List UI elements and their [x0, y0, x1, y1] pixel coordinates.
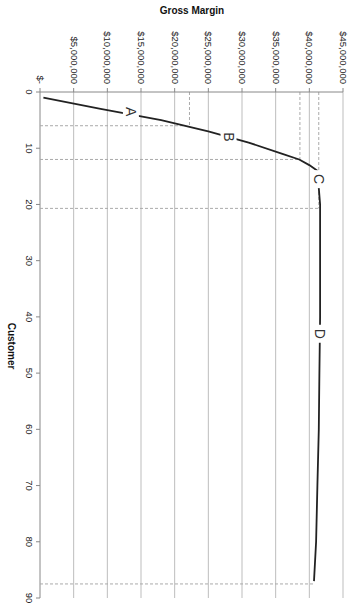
x-tick-label: 40	[24, 312, 35, 323]
data-series-line	[43, 98, 320, 581]
segment-labels: ABCD	[123, 103, 328, 343]
x-tick-label: 90	[24, 593, 35, 604]
y-tick-label: $10,000,000	[102, 31, 113, 84]
segment-label: C	[311, 174, 327, 184]
segment-label: D	[312, 329, 328, 339]
y-tick-label: $25,000,000	[203, 31, 214, 84]
x-tick-label: 70	[24, 480, 35, 491]
reference-lines	[40, 92, 320, 584]
x-tick-label: 20	[24, 199, 35, 210]
x-axis-title: Customer	[6, 323, 17, 370]
gridlines	[40, 92, 343, 598]
x-tick-label: 10	[24, 143, 35, 154]
x-tick-label: 0	[24, 89, 35, 94]
y-tick-label: $15,000,000	[136, 31, 147, 84]
y-tick-label: $20,000,000	[170, 31, 181, 84]
y-axis-title: Gross Margin	[160, 5, 224, 16]
y-tick-label: $5,000,000	[69, 36, 80, 84]
y-tick-label: $-	[35, 76, 46, 84]
y-tick-label: $45,000,000	[338, 31, 349, 84]
gross-margin-chart: $-$5,000,000$10,000,000$15,000,000$20,00…	[0, 0, 356, 610]
y-tick-label: $30,000,000	[237, 31, 248, 84]
y-tick-label: $40,000,000	[304, 31, 315, 84]
x-tick-label: 30	[24, 255, 35, 266]
y-tick-label: $35,000,000	[271, 31, 282, 84]
segment-label: B	[221, 132, 237, 141]
x-tick-label: 50	[24, 368, 35, 379]
segment-label: A	[123, 107, 139, 117]
x-tick-label: 80	[24, 536, 35, 547]
axes: $-$5,000,000$10,000,000$15,000,000$20,00…	[24, 31, 349, 603]
gross-margin-curve	[43, 98, 320, 581]
x-tick-label: 60	[24, 424, 35, 435]
